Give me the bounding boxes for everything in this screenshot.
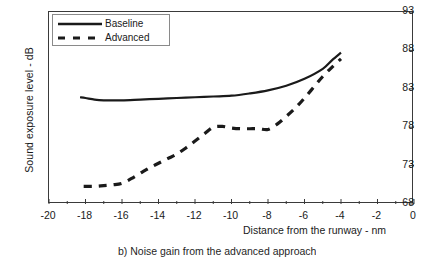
y-tick-label: 78	[392, 119, 414, 131]
x-tick-label: -4	[325, 209, 355, 221]
data-series	[80, 53, 341, 187]
y-tick-label: 73	[392, 158, 414, 170]
legend-label-advanced: Advanced	[103, 32, 149, 44]
x-tick-label: -10	[216, 209, 246, 221]
chart-figure: Sound exposure level - dB Baseline Advan…	[0, 0, 438, 258]
legend-key-solid-line-icon	[57, 18, 103, 30]
x-tick-label: -6	[289, 209, 319, 221]
x-tick-label: -8	[252, 209, 282, 221]
legend: Baseline Advanced	[52, 14, 170, 46]
x-tick-label: -2	[362, 209, 392, 221]
y-tick-label: 93	[392, 4, 414, 16]
x-tick-label: -20	[33, 209, 63, 221]
y-tick-label: 88	[392, 42, 414, 54]
legend-label-baseline: Baseline	[103, 18, 143, 30]
x-tick-label: -16	[106, 209, 136, 221]
legend-item-baseline: Baseline	[57, 17, 165, 31]
legend-key-dashed-line-icon	[57, 32, 103, 44]
legend-item-advanced: Advanced	[57, 31, 165, 45]
series-line-baseline	[80, 53, 341, 101]
y-tick-label: 68	[392, 196, 414, 208]
figure-caption: b) Noise gain from the advanced approach	[118, 245, 316, 258]
x-tick-label: -18	[70, 209, 100, 221]
x-tick-label: -14	[143, 209, 173, 221]
x-tick-label: -12	[179, 209, 209, 221]
series-line-advanced	[84, 59, 341, 187]
y-tick-label: 83	[392, 81, 414, 93]
x-axis-label: Distance from the runway - nm	[243, 224, 386, 236]
y-axis-label: Sound exposure level - dB	[23, 20, 35, 200]
x-tick-label: 0	[398, 209, 428, 221]
